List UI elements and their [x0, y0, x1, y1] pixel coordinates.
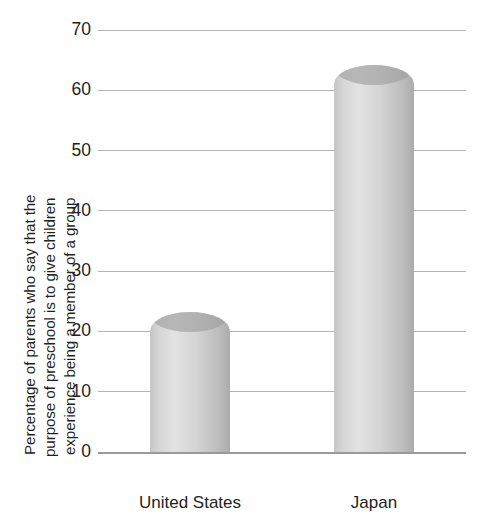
- y-axis-tick-label: 60: [72, 82, 91, 100]
- plot-area: 010203040506070United StatesJapan: [98, 30, 466, 452]
- x-axis-tick-label: United States: [139, 494, 241, 511]
- y-axis-tick-label: 0: [81, 443, 91, 461]
- x-axis-tick-label: Japan: [351, 494, 397, 511]
- bar-united-states: [150, 331, 230, 452]
- y-axis-tick-label: 30: [72, 262, 91, 280]
- bar-cap-shade: [150, 312, 230, 331]
- bar-japan: [334, 84, 414, 452]
- y-axis-tick-label: 10: [72, 383, 91, 401]
- x-axis-line: [98, 452, 466, 454]
- y-axis-title: Percentage of parents who say that the p…: [0, 0, 80, 470]
- gridline: [98, 30, 466, 31]
- y-axis-title-line-1: Percentage of parents who say that the: [22, 195, 37, 455]
- bar-cap: [150, 312, 230, 350]
- bar-cap-shade: [334, 65, 414, 84]
- y-axis-tick-label: 70: [72, 21, 91, 39]
- y-axis-tick-label: 40: [72, 202, 91, 220]
- y-axis-tick-label: 20: [72, 323, 91, 341]
- bar-cap: [334, 65, 414, 103]
- y-axis-title-line-2: purpose of preschool is to give children: [42, 198, 57, 457]
- y-axis-tick-label: 50: [72, 142, 91, 160]
